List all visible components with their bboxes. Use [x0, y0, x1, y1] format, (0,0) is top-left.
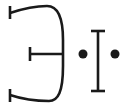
diagram-svg [0, 0, 129, 110]
diagram-canvas [0, 0, 129, 110]
right-dot [111, 50, 120, 59]
left-dot [79, 50, 88, 59]
